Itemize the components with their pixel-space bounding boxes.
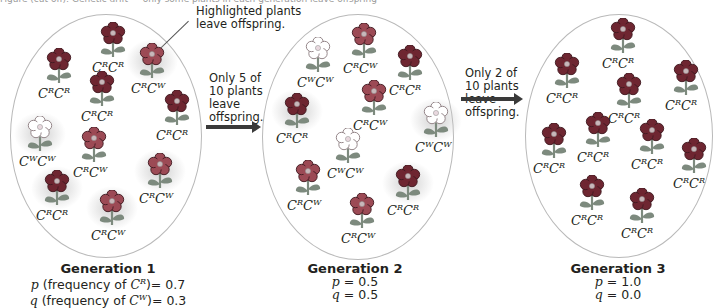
genotype-label: CRCR <box>665 98 697 113</box>
genotype-label: CRCR <box>387 203 419 218</box>
transition-2-line4: offspring. <box>465 106 519 119</box>
transition-note-1: Only 5 of 10 plants leave offspring. <box>209 72 263 124</box>
genotype-label: CRCR <box>631 157 663 172</box>
transition-note-2: Only 2 of 10 plants leave offspring. <box>465 67 519 119</box>
generation-3-q-line: q = 0.0 <box>563 288 673 301</box>
generation-2-q-line: q = 0.5 <box>300 288 410 301</box>
arrow-right-icon <box>206 125 253 129</box>
callout-highlighted-plants: Highlighted plants leave offspring. <box>196 5 301 31</box>
callout-line2: leave offspring. <box>196 18 301 31</box>
genotype-label: CRCW <box>341 231 375 246</box>
arrow-right-icon <box>461 97 515 101</box>
genotype-label: CRCR <box>673 176 705 191</box>
genotype-label: CRCW <box>287 198 321 213</box>
genotype-label: CRCR <box>577 150 609 165</box>
genotype-label: CRCR <box>571 213 603 228</box>
genotype-label: CRCW <box>139 191 173 206</box>
generation-3-label: Generation 3 p = 1.0 q = 0.0 <box>563 262 673 301</box>
genotype-label: CRCR <box>533 161 565 176</box>
generation-2-label: Generation 2 p = 0.5 q = 0.5 <box>300 262 410 301</box>
genotype-label: CRCW <box>91 228 125 243</box>
genotype-label: CWCW <box>297 75 333 90</box>
generation-1-p-line: p (frequency of CR)= 0.7 <box>20 275 196 291</box>
genotype-label: CRCR <box>38 86 70 101</box>
genotype-label: CRCW <box>343 61 377 76</box>
genotype-label: CRCR <box>621 226 653 241</box>
genotype-label: CRCR <box>602 56 634 71</box>
genotype-label: CWCW <box>415 140 451 155</box>
generation-1-label: Generation 1 p (frequency of CR)= 0.7 q … <box>20 262 196 307</box>
figure-caption-cutoff: Figure (cut off): Genetic drift — only s… <box>0 0 377 4</box>
genotype-label: CRCR <box>546 91 578 106</box>
genotype-label: CWCW <box>327 166 363 181</box>
generation-1-title: Generation 1 <box>20 262 196 275</box>
genotype-label: CRCR <box>156 128 188 143</box>
genotype-label: CRCR <box>276 131 308 146</box>
generation-1-q-line: q (frequency of CW)= 0.3 <box>20 291 196 307</box>
genotype-label: CRCR <box>81 109 113 124</box>
genotype-label: CRCR <box>36 208 68 223</box>
